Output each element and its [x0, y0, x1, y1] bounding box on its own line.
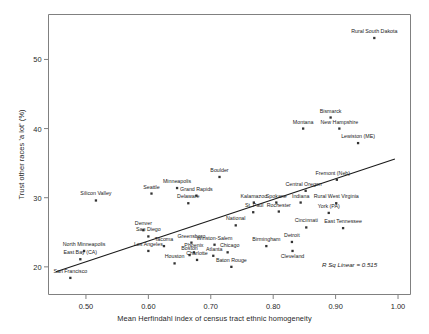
data-point-marker: [150, 192, 152, 194]
data-point-marker: [187, 202, 189, 204]
data-point-label: Delaware: [177, 194, 199, 199]
data-point-marker: [265, 245, 267, 247]
x-axis-title: Mean Herfindahl index of census tract et…: [0, 314, 429, 323]
data-point-label: Phoenix: [184, 243, 203, 248]
data-point-label: Winston-Salem: [197, 236, 233, 241]
data-point-label: Minneapolis: [163, 179, 191, 184]
data-point-marker: [338, 127, 340, 129]
data-point-label: Fremont (Neb): [316, 171, 350, 176]
data-point-label: San Diego: [136, 227, 161, 232]
data-point-marker: [235, 224, 237, 226]
data-point-label: Charlotte: [186, 251, 208, 256]
scatter-plot-figure: 0.500.600.700.800.901.0020304050 Rural S…: [0, 0, 429, 334]
x-tick-label: 0.50: [79, 302, 93, 311]
plot-frame: [49, 15, 411, 295]
y-tick-label: 40: [25, 124, 42, 133]
data-point-label: Indiana: [292, 194, 309, 199]
data-point-marker: [373, 37, 375, 39]
y-tick-label: 20: [25, 262, 42, 271]
x-tick-label: 0.90: [328, 302, 342, 311]
data-point-marker: [79, 258, 81, 260]
data-point-marker: [69, 277, 71, 279]
data-point-label: East Bay (CA): [64, 250, 98, 255]
y-axis-title: Trust other races 'a lot' (%): [17, 30, 26, 280]
data-point-label: Cincinnati: [295, 218, 318, 223]
data-point-marker: [196, 259, 198, 261]
data-point-label: Rural West Virginia: [314, 194, 359, 199]
data-point-marker: [357, 142, 359, 144]
data-point-label: New Hampshire: [321, 120, 359, 125]
data-point-marker: [163, 245, 165, 247]
r-squared-annotation: R Sq Linear = 0.515: [322, 261, 377, 268]
data-point-label: East Tennessee: [324, 219, 362, 224]
data-point-marker: [218, 176, 220, 178]
data-point-marker: [328, 212, 330, 214]
y-tick-label: 30: [25, 193, 42, 202]
data-point-label: Cleveland: [281, 254, 305, 259]
data-point-label: Atlanta: [206, 247, 223, 252]
data-point-label: Central Oregon: [286, 182, 322, 187]
x-tick-label: 1.00: [391, 302, 405, 311]
data-point-marker: [252, 211, 254, 213]
x-tick-label: 0.80: [266, 302, 280, 311]
data-point-marker: [230, 266, 232, 268]
data-point-label: Houston: [165, 254, 185, 259]
data-point-marker: [212, 255, 214, 257]
data-point-marker: [278, 210, 280, 212]
data-point-marker: [291, 241, 293, 243]
data-point-marker: [147, 235, 149, 237]
data-point-label: National: [226, 216, 245, 221]
data-point-label: Rural South Dakota: [351, 29, 397, 34]
x-tick-label: 0.70: [204, 302, 218, 311]
data-point-marker: [176, 187, 178, 189]
data-point-marker: [305, 226, 307, 228]
data-point-label: Spokane: [266, 194, 287, 199]
data-point-marker: [95, 199, 97, 201]
data-point-label: North Minneapolis: [63, 242, 106, 247]
data-point-marker: [147, 250, 149, 252]
data-point-label: Boulder: [210, 168, 228, 173]
data-point-marker: [226, 251, 228, 253]
data-point-label: York (PA): [318, 204, 340, 209]
data-point-label: Lewiston (ME): [341, 134, 375, 139]
data-point-marker: [342, 227, 344, 229]
data-point-label: Rochester: [267, 203, 291, 208]
data-point-marker: [300, 201, 302, 203]
data-point-label: Montana: [293, 120, 314, 125]
data-point-label: Baton Rouge: [216, 258, 247, 263]
data-point-marker: [173, 262, 175, 264]
data-point-label: San Francisco: [53, 269, 87, 274]
data-point-label: Kalamazoo: [241, 194, 268, 199]
data-point-label: Grand Rapids: [180, 187, 213, 192]
y-tick-label: 50: [25, 55, 42, 64]
data-point-label: Birmingham: [252, 237, 280, 242]
data-point-marker: [336, 179, 338, 181]
data-point-label: Silicon Valley: [80, 191, 111, 196]
data-point-label: Los Angeles: [134, 242, 163, 247]
data-point-marker: [302, 127, 304, 129]
data-point-marker: [291, 250, 293, 252]
data-point-label: St. Paul: [245, 203, 264, 208]
x-tick-label: 0.60: [141, 302, 155, 311]
data-point-label: Seattle: [143, 185, 160, 190]
data-point-label: Bismarck: [320, 109, 342, 114]
data-point-label: Detroit: [284, 233, 300, 238]
